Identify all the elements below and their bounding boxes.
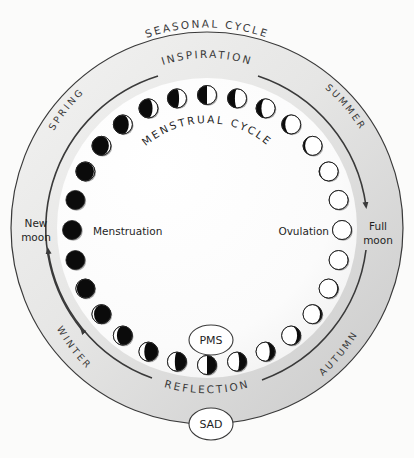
svg-text:SAD: SAD: [199, 418, 222, 431]
menstruation-label: Menstruation: [93, 225, 162, 237]
ovulation-label: Ovulation: [278, 225, 329, 237]
seasonal-cycle-diagram: SEASONAL CYCLE INSPIRATION MENSTRUAL CYC…: [0, 0, 414, 458]
pms-badge: PMS: [189, 325, 233, 355]
sad-badge: SAD: [189, 408, 233, 440]
svg-text:PMS: PMS: [199, 334, 222, 347]
full-moon-label-line2: moon: [363, 234, 393, 246]
new-moon-label-line1: New: [25, 217, 48, 229]
new-moon-label-line2: moon: [21, 231, 51, 243]
full-moon-label-line1: Full: [369, 220, 387, 232]
